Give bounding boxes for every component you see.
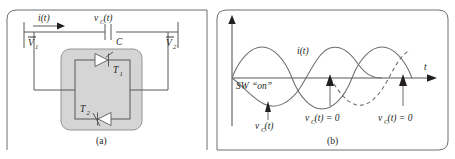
time-axis-label: t bbox=[424, 62, 427, 72]
up-arrow-marker-icon bbox=[265, 101, 271, 120]
capacitor-curve-label: v C (t) bbox=[255, 121, 273, 133]
current-curve-label: i(t) bbox=[297, 46, 309, 57]
thyristor-1-label-sub: 1 bbox=[120, 70, 123, 77]
panel-b-frame bbox=[217, 10, 448, 150]
figure-canvas: i(t) v C (t) C V 1 V 2 T 1 T 2 bbox=[0, 0, 455, 159]
terminal-right-label: V 2 bbox=[166, 37, 177, 50]
panel-b-tag: (b) bbox=[327, 136, 338, 147]
zero-crossing-label-2: v C (t) = 0 bbox=[378, 113, 413, 125]
terminal-right-label-sub: 2 bbox=[173, 43, 177, 50]
current-label: i(t) bbox=[38, 13, 50, 24]
zero-crossing-label-1: v C (t) = 0 bbox=[305, 113, 340, 125]
capacitor-voltage-waveform bbox=[232, 47, 382, 106]
zero-crossing-label-2-base: v bbox=[378, 113, 383, 123]
thyristor-1-label-base: T bbox=[113, 65, 119, 75]
current-arrow-icon bbox=[33, 23, 65, 30]
zero-crossing-label-1-base: v bbox=[305, 113, 310, 123]
up-arrow-marker-icon bbox=[399, 74, 407, 106]
terminal-left-label: V 1 bbox=[28, 37, 38, 50]
capacitor-name-label: C bbox=[116, 37, 123, 47]
terminal-left-label-sub: 1 bbox=[35, 43, 38, 50]
thyristor-2-label-base: T bbox=[80, 104, 86, 114]
switch-on-label-italic: SW bbox=[236, 81, 250, 91]
capacitor-curve-label-arg: (t) bbox=[265, 121, 274, 132]
zero-crossing-label-1-rest: (t) = 0 bbox=[315, 113, 340, 124]
up-arrow-marker-icon bbox=[326, 74, 334, 106]
terminal-right-label-base: V bbox=[166, 38, 173, 48]
capacitor-curve-label-base: v bbox=[255, 121, 260, 131]
switch-on-label-quoted: “on” bbox=[252, 81, 272, 91]
figure-root: i(t) v C (t) C V 1 V 2 T 1 T 2 bbox=[0, 0, 455, 159]
zero-crossing-label-2-rest: (t) = 0 bbox=[388, 113, 413, 124]
capacitor-voltage-label: v C (t) bbox=[94, 13, 112, 25]
switch-on-label: SW “on” bbox=[236, 81, 272, 91]
panel-a-tag: (a) bbox=[96, 136, 107, 147]
capacitor-voltage-label-base: v bbox=[94, 13, 99, 23]
vertical-axis bbox=[228, 15, 235, 126]
capacitor-icon bbox=[105, 24, 111, 40]
capacitor-voltage-label-arg: (t) bbox=[104, 13, 113, 24]
